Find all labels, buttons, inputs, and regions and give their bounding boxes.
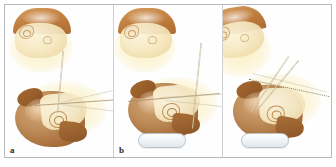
panel-label-c: c [222,145,223,155]
panel-label-a: a [10,145,15,155]
panel-c: c [222,5,331,157]
panel-label-b: b [119,145,124,155]
upper-head-illustration-b [118,8,176,58]
figure-container: a [0,0,336,167]
nose-landmark-icon [43,36,52,44]
panel-a: a [5,5,113,157]
lower-head-illustration-b [128,77,202,139]
figure-frame: a [4,4,332,158]
lower-head-illustration-a [15,85,89,147]
panel-b: b [113,5,222,157]
headrest-support-c [241,133,289,148]
headrest-support-b [138,133,186,148]
nose-landmark-icon [148,36,157,44]
upper-head-illustration-c [222,5,271,62]
